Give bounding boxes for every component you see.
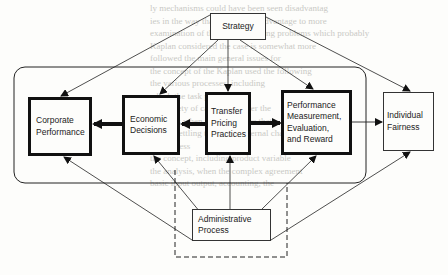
node-individual-fairness: Individual Fairness [383,92,434,151]
node-corporate-performance-label: Corporate Performance [36,115,85,138]
node-strategy-label: Strategy [222,21,254,33]
node-corporate-performance: Corporate Performance [28,97,92,156]
node-individual-fairness-label: Individual Fairness [387,110,423,133]
node-administrative-process: Administrative Process [192,209,271,241]
node-economic-decisions: Economic Decisions [122,95,180,155]
node-performance-measurement-label: Performance Measurement, Evaluation, and… [287,100,341,146]
node-strategy: Strategy [210,13,266,40]
node-administrative-process-label: Administrative Process [198,214,251,237]
node-transfer-pricing-practices-label: Transfer Pricing Practices [211,106,246,141]
node-economic-decisions-label: Economic Decisions [130,114,167,137]
node-performance-measurement: Performance Measurement, Evaluation, and… [281,90,352,155]
node-transfer-pricing-practices: Transfer Pricing Practices [205,92,251,155]
